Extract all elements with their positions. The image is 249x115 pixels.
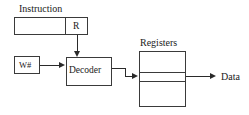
registers-title: Registers — [140, 38, 177, 48]
arrowhead-write-number-to-decoder — [59, 62, 65, 68]
write-number-label: W# — [19, 61, 31, 70]
decoder-label: Decoder — [69, 66, 101, 76]
arrowhead-registers-to-data — [210, 73, 216, 79]
arrowhead-decoder-to-registers — [132, 73, 138, 79]
connector-instruction-to-decoder — [77, 35, 78, 52]
register-file-diagram: Instruction R W# Decoder Registers Data — [0, 0, 249, 115]
data-output-label: Data — [221, 72, 240, 82]
registers-box — [139, 51, 186, 107]
registers-row-divider-bottom — [139, 81, 186, 82]
instruction-field-divider — [65, 17, 66, 35]
instruction-title: Instruction — [19, 4, 62, 14]
instruction-register-field-label: R — [73, 22, 79, 32]
connector-decoder-to-registers-segment-1 — [112, 68, 126, 69]
connector-registers-to-data — [186, 76, 211, 77]
connector-write-number-to-decoder — [40, 65, 60, 66]
registers-row-divider-top — [139, 72, 186, 73]
